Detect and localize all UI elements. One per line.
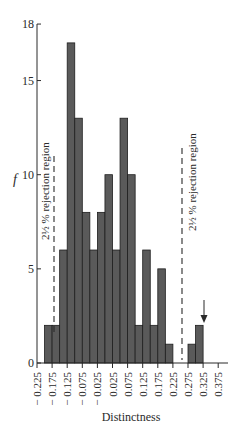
histogram-bar (165, 344, 173, 363)
right-rejection-label: 2½ % rejection region (186, 133, 198, 231)
histogram-bar (143, 250, 151, 363)
y-tick-label: 18 (22, 17, 34, 31)
x-tick-label: 0.225 (167, 372, 179, 397)
x-tick-label: − 0.125 (61, 372, 73, 406)
y-tick-label: 10 (22, 168, 34, 182)
x-axis-title: Distinctness (102, 410, 161, 424)
left-rejection-label: 2½ % rejection region (39, 142, 51, 240)
histogram-bar (113, 250, 121, 363)
histogram-bar (128, 175, 136, 363)
x-tick-label: − 0.025 (91, 372, 103, 406)
y-tick-label: 0 (28, 356, 34, 370)
x-tick-label: 0.175 (152, 372, 164, 397)
histogram-bar (150, 325, 158, 363)
histogram-bar (158, 269, 166, 363)
histogram-bar (188, 344, 196, 363)
histogram-bar (52, 325, 60, 363)
x-tick-label: 0.275 (182, 372, 194, 397)
histogram-bar (67, 43, 75, 363)
x-tick-label: 0.375 (212, 372, 224, 397)
x-tick-label: − 0.175 (46, 372, 58, 406)
histogram-bar (45, 325, 53, 363)
histogram-bar (135, 325, 143, 363)
x-tick-label: 0.125 (137, 372, 149, 397)
x-tick-label: − 0.225 (31, 372, 43, 406)
y-tick-label: 15 (22, 74, 34, 88)
histogram-bars (45, 43, 204, 363)
y-tick-label: 5 (28, 262, 34, 276)
x-ticks: − 0.225− 0.175− 0.125− 0.075− 0.0250.025… (31, 363, 224, 406)
histogram-chart: 05101518 − 0.225− 0.175− 0.125− 0.075− 0… (0, 0, 245, 442)
histogram-bar (120, 118, 128, 363)
x-tick-label: 0.325 (197, 372, 209, 397)
histogram-bar (82, 212, 90, 363)
x-tick-label: 0.025 (107, 372, 119, 397)
histogram-bar (97, 212, 105, 363)
x-tick-label: − 0.075 (76, 372, 88, 406)
histogram-bar (196, 325, 204, 363)
histogram-bar (60, 250, 68, 363)
x-tick-label: 0.075 (122, 372, 134, 397)
y-axis-title: f (13, 172, 19, 187)
histogram-bar (105, 175, 113, 363)
histogram-bar (90, 250, 98, 363)
arrow-icon (201, 300, 208, 323)
histogram-bar (75, 118, 83, 363)
